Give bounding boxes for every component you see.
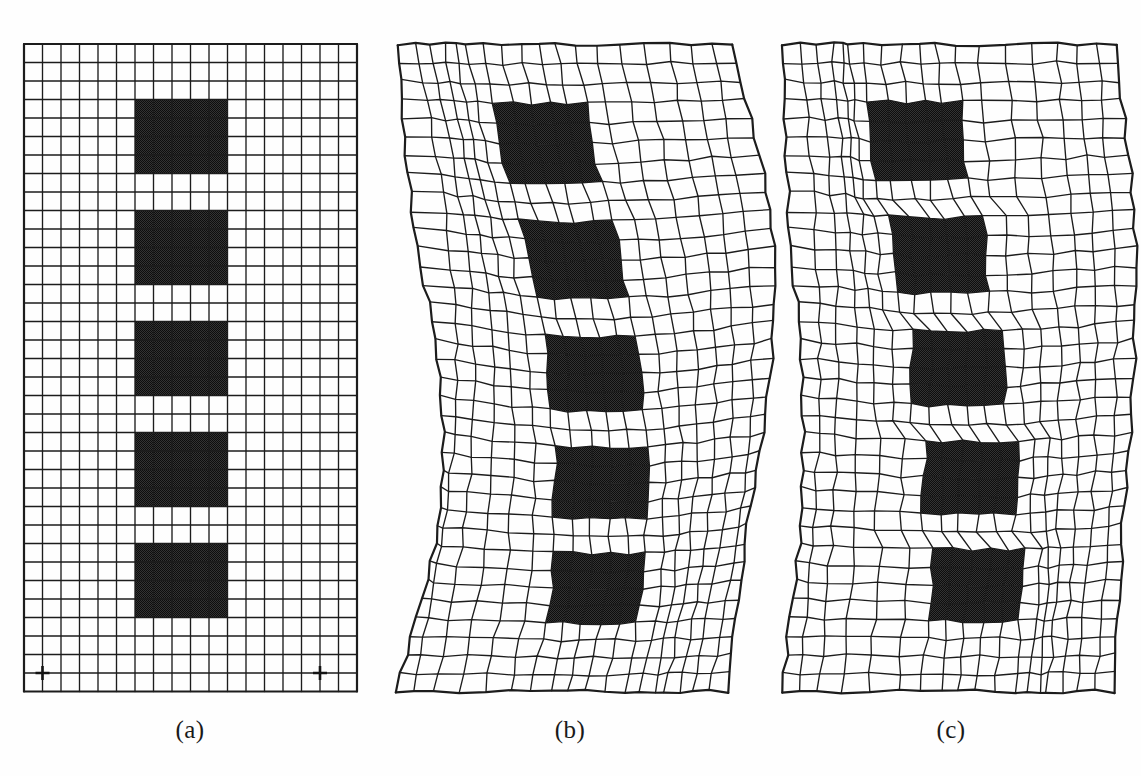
mesh-cell-dark — [172, 470, 191, 489]
mesh-cell-dark — [191, 488, 210, 507]
mesh-cell-dark — [135, 118, 154, 137]
mesh-gridline — [1077, 45, 1098, 691]
mesh-cell-dark — [497, 123, 518, 144]
mesh-cell-dark — [154, 488, 173, 507]
mesh-gridline — [398, 43, 733, 46]
mesh-cell-dark — [930, 255, 950, 275]
mesh-cell-dark — [966, 385, 984, 406]
mesh-gridline — [414, 43, 458, 691]
mesh-gridline — [396, 690, 728, 693]
mesh-cell-dark — [585, 355, 603, 374]
mesh-gridline — [401, 79, 740, 85]
mesh-cell-dark — [945, 216, 968, 238]
mesh-cell-dark — [135, 248, 154, 267]
mesh-gridline — [644, 43, 699, 692]
mesh-cell-dark — [978, 479, 998, 498]
mesh-cell-dark — [592, 552, 611, 573]
mesh-cell-dark — [545, 241, 565, 262]
mesh-cell-dark — [154, 137, 173, 156]
mesh-gridline — [1095, 43, 1118, 689]
mesh-gridline — [399, 61, 736, 65]
mesh-cell-dark — [911, 159, 930, 180]
mesh-cell-dark — [962, 440, 982, 461]
mesh-cell-dark — [172, 229, 191, 248]
mesh-cell-dark — [209, 248, 228, 267]
mesh-cell-dark — [154, 322, 173, 341]
mesh-cell-dark — [552, 480, 574, 502]
mesh-cell-dark — [947, 237, 967, 255]
mesh-gridline — [790, 191, 1131, 200]
mesh-cell-dark — [172, 581, 191, 600]
mesh-cell-dark — [191, 470, 210, 489]
mesh-cell-dark — [209, 599, 228, 618]
mesh-cell-dark — [154, 433, 173, 452]
mesh-cell-dark — [154, 266, 173, 285]
mesh-cell-dark — [191, 155, 210, 174]
mesh-cell-dark — [622, 391, 644, 411]
mesh-cell-dark — [209, 118, 228, 137]
mesh-gridline — [437, 523, 746, 536]
mesh-cell-dark — [984, 366, 1007, 387]
mesh-cell-dark — [566, 354, 585, 374]
mesh-cell-dark — [135, 155, 154, 174]
mesh-gridline — [1115, 45, 1138, 693]
mesh-cell-dark — [172, 377, 191, 396]
mesh-cell-dark — [622, 372, 644, 393]
mesh-cell-dark — [191, 266, 210, 285]
mesh-cell-dark — [154, 229, 173, 248]
mesh-cell-dark — [209, 100, 228, 119]
mesh-cell-dark — [191, 359, 210, 378]
mesh-gridline — [786, 636, 1115, 641]
mesh-gridline — [408, 653, 731, 659]
mesh-cell-dark — [602, 373, 623, 392]
mesh-cell-dark — [154, 562, 173, 581]
mesh-gridline — [430, 45, 476, 692]
mesh-cell-dark — [967, 254, 986, 276]
mesh-cell-dark — [547, 373, 569, 390]
mesh-cell-dark — [172, 340, 191, 359]
mesh-cell-dark — [172, 100, 191, 119]
mesh-cell-dark — [135, 544, 154, 563]
mesh-cell-dark — [1002, 585, 1022, 603]
mesh-cell-dark — [209, 211, 228, 230]
mesh-cell-dark — [172, 211, 191, 230]
mesh-cell-dark — [172, 451, 191, 470]
mesh-cell-dark — [209, 137, 228, 156]
mesh-cell-dark — [890, 159, 911, 180]
mesh-gridline — [802, 414, 1131, 425]
mesh-cell-dark — [154, 581, 173, 600]
mesh-cell-dark — [997, 477, 1018, 497]
mesh-cell-dark — [154, 100, 173, 119]
mesh-cell-dark — [604, 391, 623, 412]
mesh-cell-dark — [589, 500, 610, 519]
mesh-cell-dark — [921, 475, 944, 497]
mesh-cell-dark — [172, 433, 191, 452]
mesh-gridline — [783, 671, 1115, 675]
mesh-cell-dark — [209, 322, 228, 341]
mesh-cell-dark — [921, 496, 944, 515]
mesh-cell-dark — [958, 495, 980, 514]
mesh-cell-dark — [154, 544, 173, 563]
mesh-cell-dark — [191, 137, 210, 156]
mesh-cell-dark — [135, 562, 154, 581]
mesh-cell-dark — [135, 137, 154, 156]
mesh-cell-dark — [135, 470, 154, 489]
mesh-cell-dark — [209, 581, 228, 600]
mesh-gridline — [782, 690, 1114, 694]
mesh-cell-dark — [930, 237, 950, 258]
mesh-cell-dark — [209, 544, 228, 563]
panel-a: (a) — [0, 0, 380, 776]
mesh-gridline — [1057, 43, 1081, 694]
mesh-cell-dark — [565, 260, 586, 280]
panel-c: (c) — [761, 0, 1141, 776]
mesh-cell-dark — [601, 604, 621, 624]
mesh-cell-dark — [926, 441, 942, 459]
mesh-cell-dark — [172, 118, 191, 137]
mesh-cell-dark — [568, 587, 588, 606]
mesh-cell-dark — [567, 102, 589, 122]
mesh-cell-dark — [191, 599, 210, 618]
mesh-cell-dark — [209, 451, 228, 470]
mesh-gridline — [782, 45, 805, 692]
mesh-cell-dark — [209, 377, 228, 396]
mesh-cell-dark — [628, 482, 649, 502]
